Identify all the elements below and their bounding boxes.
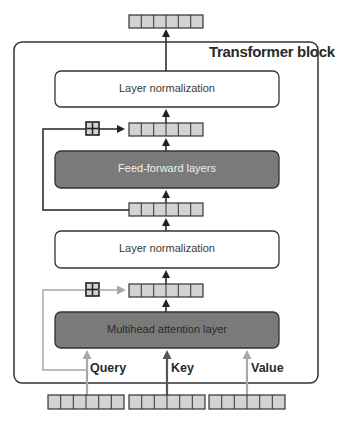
value-label: Value xyxy=(251,361,284,375)
output-vector xyxy=(129,15,203,28)
layer-norm-top-label: Layer normalization xyxy=(55,82,279,94)
transformer-diagram xyxy=(0,0,337,423)
add-icon-top xyxy=(86,122,99,135)
layer-norm-bottom-label: Layer normalization xyxy=(55,242,279,254)
add-icon-bottom xyxy=(86,283,99,296)
feed-forward-label: Feed-forward layers xyxy=(55,162,279,174)
multihead-attention-label: Multihead attention layer xyxy=(55,323,279,335)
query-label: Query xyxy=(90,361,126,375)
block-title: Transformer block xyxy=(209,43,335,60)
key-label: Key xyxy=(171,361,194,375)
